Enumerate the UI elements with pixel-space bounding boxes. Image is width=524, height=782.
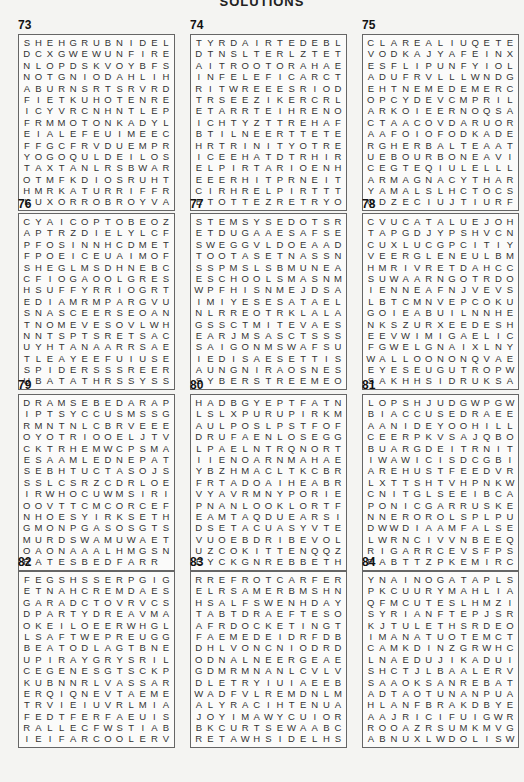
grid-letter: P <box>388 397 400 408</box>
grid-letter: T <box>435 620 447 631</box>
grid-letter: E <box>114 330 126 341</box>
grid-letter: E <box>33 711 45 722</box>
grid-letter: E <box>21 128 33 139</box>
grid-letter: E <box>56 250 68 261</box>
grid-letter: R <box>286 174 298 185</box>
grid-letter: C <box>365 162 377 173</box>
grid-letter: I <box>274 477 286 488</box>
grid-letter: C <box>493 262 505 273</box>
grid-letter: J <box>149 465 161 476</box>
grid-letter: R <box>21 722 33 733</box>
grid-letter: T <box>125 642 137 653</box>
grid-letter: C <box>365 488 377 499</box>
grid-letter: N <box>458 151 470 162</box>
word-search-puzzle-74: 74TYRDAIRTEDEBLDTNSLTERLZTETAITROOTORAHA… <box>190 18 347 211</box>
grid-letter: D <box>493 71 505 82</box>
grid-letter: R <box>400 443 412 454</box>
grid-letter: B <box>274 262 286 273</box>
grid-letter: W <box>504 397 516 408</box>
grid-letter: R <box>446 500 458 511</box>
grid-letter: D <box>79 227 91 238</box>
grid-letter: O <box>91 117 103 128</box>
grid-letter: D <box>332 642 344 653</box>
grid-letter: S <box>160 522 172 533</box>
grid-letter: H <box>193 140 205 151</box>
grid-letter: A <box>216 105 228 116</box>
grid-letter: N <box>102 117 114 128</box>
grid-letter: J <box>481 216 493 227</box>
grid-letter: E <box>21 585 33 596</box>
grid-letter: O <box>481 364 493 375</box>
grid-letter: G <box>493 397 505 408</box>
grid-letter: T <box>309 216 321 227</box>
grid-letter: G <box>137 574 149 585</box>
grid-letter: H <box>149 174 161 185</box>
grid-letter: I <box>193 117 205 128</box>
grid-letter: A <box>321 654 333 665</box>
grid-letter: I <box>286 162 298 173</box>
grid-letter: G <box>21 597 33 608</box>
grid-letter: H <box>56 465 68 476</box>
grid-letter: Y <box>493 699 505 710</box>
grid-letter: N <box>423 296 435 307</box>
grid-letter: N <box>228 500 240 511</box>
grid-letter: C <box>251 620 263 631</box>
grid-letter: L <box>228 128 240 139</box>
grid-letter: H <box>365 699 377 710</box>
grid-letter: T <box>274 140 286 151</box>
grid-letter: S <box>56 330 68 341</box>
grid-letter: T <box>423 688 435 699</box>
grid-letter: P <box>216 262 228 273</box>
grid-letter: A <box>388 574 400 585</box>
grid-letter: P <box>33 250 45 261</box>
grid-letter: M <box>216 665 228 676</box>
grid-letter: S <box>251 250 263 261</box>
grid-letter: C <box>411 534 423 545</box>
grid-letter: E <box>251 71 263 82</box>
grid-letter: K <box>493 477 505 488</box>
grid-letter: T <box>228 677 240 688</box>
word-search-puzzle-75: 75CLAREALIUQETEVODKAJYAFEINXESFLIPUNFYIO… <box>362 18 519 211</box>
grid-letter: S <box>137 330 149 341</box>
grid-letter: A <box>458 330 470 341</box>
grid-letter: R <box>79 37 91 48</box>
grid-letter: T <box>56 500 68 511</box>
grid-letter: E <box>91 353 103 364</box>
grid-letter: S <box>33 454 45 465</box>
grid-letter: L <box>423 733 435 744</box>
grid-letter: N <box>377 488 389 499</box>
grid-letter: U <box>205 364 217 375</box>
grid-letter: G <box>67 273 79 284</box>
grid-letter: V <box>297 319 309 330</box>
grid-letter: C <box>79 722 91 733</box>
grid-letter: J <box>458 284 470 295</box>
grid-letter: J <box>481 608 493 619</box>
grid-letter: N <box>400 83 412 94</box>
grid-letter: F <box>286 608 298 619</box>
grid-letter: I <box>469 711 481 722</box>
grid-letter: N <box>125 262 137 273</box>
grid-letter: E <box>493 620 505 631</box>
grid-letter: T <box>160 454 172 465</box>
grid-letter: O <box>251 273 263 284</box>
grid-letter: S <box>263 733 275 744</box>
puzzle-number: 73 <box>18 18 175 32</box>
grid-letter: O <box>239 341 251 352</box>
grid-letter: T <box>205 128 217 139</box>
grid-letter: Y <box>79 608 91 619</box>
grid-letter: Q <box>67 151 79 162</box>
grid-letter: N <box>446 688 458 699</box>
grid-letter: K <box>469 722 481 733</box>
grid-letter: A <box>67 341 79 352</box>
grid-letter: S <box>239 353 251 364</box>
grid-letter: T <box>332 443 344 454</box>
grid-letter: R <box>309 488 321 499</box>
grid-letter: L <box>239 500 251 511</box>
grid-letter: A <box>228 477 240 488</box>
grid-letter: O <box>297 500 309 511</box>
grid-letter: C <box>56 477 68 488</box>
grid-letter: J <box>469 431 481 442</box>
grid-letter: G <box>114 642 126 653</box>
grid-letter: I <box>263 94 275 105</box>
grid-letter: O <box>137 465 149 476</box>
